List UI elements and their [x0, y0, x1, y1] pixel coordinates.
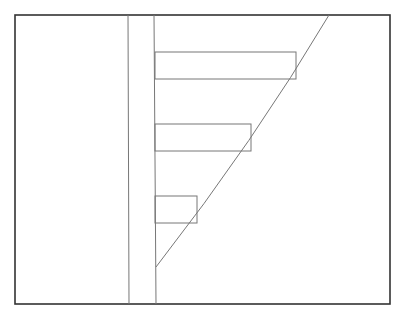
bar-1	[155, 52, 296, 79]
outer-frame	[15, 15, 390, 304]
diagram-canvas	[0, 0, 402, 319]
bar-2	[155, 124, 251, 151]
curve	[156, 15, 329, 267]
bar-3	[155, 196, 197, 223]
vertical-lines	[128, 15, 156, 304]
horizontal-bars	[155, 52, 296, 223]
vertical-line-1	[128, 15, 129, 304]
